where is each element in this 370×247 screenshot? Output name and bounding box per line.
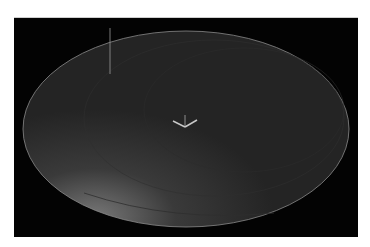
disc-object[interactable]	[23, 31, 349, 227]
3d-viewport[interactable]	[14, 17, 358, 237]
scene-canvas[interactable]	[14, 18, 358, 237]
